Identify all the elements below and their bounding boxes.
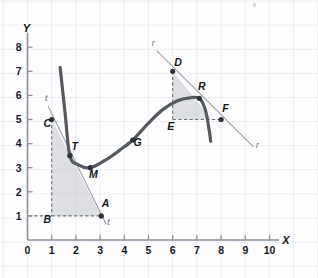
line-label-r-0: r [152, 38, 156, 48]
y-tick-label-7: 7 [16, 65, 22, 77]
x-tick-label-7: 7 [194, 244, 200, 256]
x-tick-label-8: 8 [218, 244, 224, 256]
x-axis-label: X [281, 234, 290, 246]
x-tick-label-5: 5 [146, 244, 152, 256]
x-tick-label-4: 4 [121, 244, 127, 256]
point-label-C: C [44, 117, 52, 129]
point-marker-F[interactable] [219, 117, 224, 122]
line-label-t-1: t [107, 217, 110, 227]
point-marker-A[interactable] [99, 213, 104, 218]
point-label-M: M [89, 168, 98, 180]
point-label-B: B [44, 213, 52, 225]
line-label-r-1: r [256, 140, 260, 150]
point-marker-R[interactable] [197, 96, 202, 101]
point-label-E: E [167, 120, 175, 132]
tangent-line-r [157, 51, 254, 147]
x-tick-label-9: 9 [242, 244, 248, 256]
y-tick-label-4: 4 [16, 137, 22, 149]
point-label-R: R [198, 80, 206, 92]
line-label-t-0: t [45, 93, 48, 103]
point-label-G: G [134, 136, 142, 148]
y-tick-label-2: 2 [16, 186, 22, 198]
x-tick-label-2: 2 [73, 244, 79, 256]
x-tick-label-3: 3 [97, 244, 103, 256]
y-tick-label-5: 5 [16, 113, 22, 125]
y-tick-label-6: 6 [16, 89, 22, 101]
point-label-T: T [71, 140, 79, 152]
function-graph-svg: ttrr01234567891012345678XYABCDEFGMRT [0, 0, 318, 278]
point-label-F: F [222, 102, 229, 114]
chart-canvas: ttrr01234567891012345678XYABCDEFGMRT [0, 0, 318, 278]
y-tick-label-1: 1 [16, 210, 22, 222]
x-tick-label-1: 1 [49, 244, 55, 256]
point-marker-T[interactable] [67, 153, 72, 158]
y-tick-label-3: 3 [16, 162, 22, 174]
x-tick-label-0: 0 [25, 244, 31, 256]
point-marker-D[interactable] [170, 69, 175, 74]
x-tick-label-6: 6 [170, 244, 176, 256]
y-axis-label: Y [23, 22, 32, 34]
x-tick-label-10: 10 [264, 244, 276, 256]
y-tick-label-8: 8 [16, 41, 22, 53]
point-label-A: A [101, 197, 110, 209]
point-label-D: D [174, 56, 182, 68]
